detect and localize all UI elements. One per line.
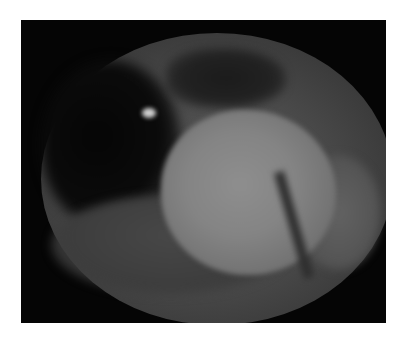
- rounded-lesion: [161, 110, 336, 275]
- dark-upper-region: [166, 48, 286, 108]
- light-reflection: [142, 108, 156, 118]
- image-frame: [21, 20, 386, 323]
